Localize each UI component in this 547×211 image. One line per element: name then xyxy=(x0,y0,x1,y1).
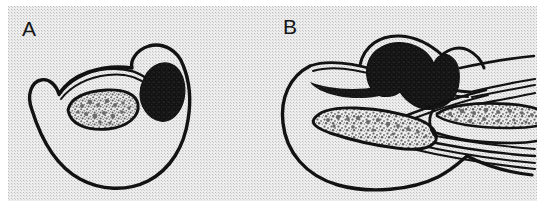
panel-b-upper-parallel-lines xyxy=(460,56,535,104)
panel-a-group xyxy=(30,45,190,188)
panel-label-a: A xyxy=(22,18,36,39)
panel-b-group xyxy=(282,36,537,190)
figure-drawing xyxy=(8,6,537,201)
figure-root: A B xyxy=(0,0,547,211)
panel-b-lower-inner-contour xyxy=(437,133,537,143)
panel-a-dark-mass xyxy=(140,63,185,121)
figure-plate xyxy=(8,6,537,201)
panel-b-stippled-rod-left-fill xyxy=(313,108,436,149)
panel-label-b: B xyxy=(283,16,297,37)
